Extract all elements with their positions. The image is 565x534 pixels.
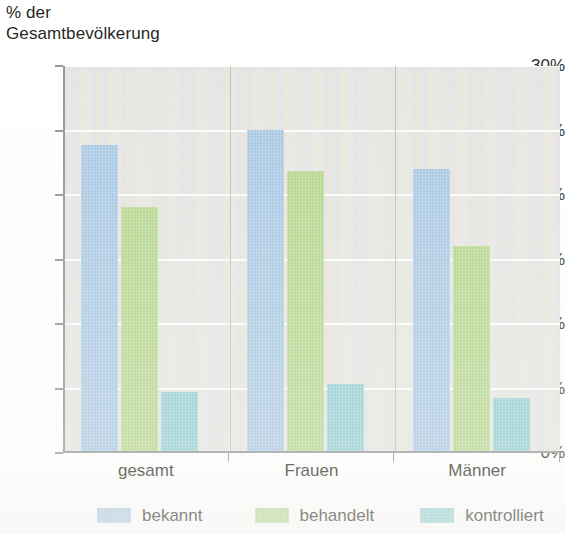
bar-gesamt-kontrolliert <box>161 392 198 451</box>
bar-texture <box>81 145 118 451</box>
category-separator <box>395 66 396 451</box>
y-axis-title-line-1: % der <box>6 3 51 22</box>
legend-item-bekannt[interactable]: bekannt <box>97 507 203 524</box>
legend-label-behandelt: behandelt <box>300 507 375 524</box>
y-axis-tick <box>55 194 63 196</box>
bar-texture <box>453 246 490 451</box>
bar-frauen-behandelt <box>287 171 324 451</box>
bar-männer-bekannt <box>413 169 450 452</box>
bar-männer-behandelt <box>453 246 490 451</box>
bar-texture <box>327 384 364 451</box>
legend-item-kontrolliert[interactable]: kontrolliert <box>420 507 543 524</box>
bar-männer-kontrolliert <box>493 398 530 451</box>
legend: bekannt behandelt kontrolliert <box>63 500 560 530</box>
legend-swatch-icon-kontrolliert <box>420 508 454 523</box>
legend-item-behandelt[interactable]: behandelt <box>255 507 375 524</box>
gridline <box>65 130 560 132</box>
x-axis-label-gesamt: gesamt <box>63 461 229 481</box>
y-axis-title-line-2: Gesamtbevölkerung <box>6 24 160 43</box>
bar-texture <box>247 130 284 451</box>
y-axis-tick <box>55 388 63 390</box>
bar-texture <box>121 207 158 451</box>
bar-gesamt-behandelt <box>121 207 158 451</box>
legend-swatch-icon-bekannt <box>97 508 131 523</box>
y-axis-title: % derGesamtbevölkerung <box>6 2 160 44</box>
bar-texture <box>493 398 530 451</box>
y-axis-tick <box>55 259 63 261</box>
y-axis-tick <box>55 452 63 454</box>
bar-frauen-bekannt <box>247 130 284 451</box>
plot-area <box>63 66 560 453</box>
x-axis-label-frauen: Frauen <box>229 461 395 481</box>
legend-swatch-icon-behandelt <box>255 508 289 523</box>
bar-texture <box>413 169 450 452</box>
category-separator <box>230 66 231 451</box>
bar-gesamt-bekannt <box>81 145 118 451</box>
bar-texture <box>161 392 198 451</box>
x-axis-label-männer: Männer <box>394 461 560 481</box>
legend-label-kontrolliert: kontrolliert <box>465 507 543 524</box>
gridline <box>65 66 560 67</box>
bar-chart: % derGesamtbevölkerung 30%25%20%15%10%5%… <box>0 0 565 534</box>
bar-frauen-kontrolliert <box>327 384 364 451</box>
y-axis-tick <box>55 65 63 67</box>
y-axis-tick <box>55 130 63 132</box>
y-axis-tick <box>55 323 63 325</box>
bar-texture <box>287 171 324 451</box>
legend-label-bekannt: bekannt <box>142 507 203 524</box>
